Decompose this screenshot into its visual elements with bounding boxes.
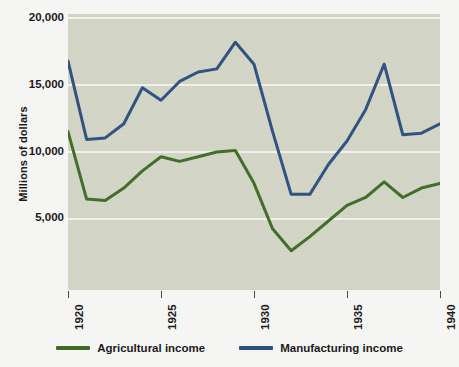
- plot-area: [68, 14, 440, 290]
- x-axis-tick-label: 1930: [259, 304, 271, 330]
- x-axis-tick-mark: [161, 291, 162, 298]
- legend-item-manufacturing: Manufacturing income: [239, 342, 403, 354]
- legend-label: Agricultural income: [97, 342, 205, 354]
- y-axis-tick-label: 10,000: [6, 145, 64, 157]
- x-axis-tick-label: 1940: [445, 304, 457, 330]
- x-axis-tick-mark: [68, 291, 69, 298]
- x-axis-tick-mark: [440, 291, 441, 298]
- series-line: [68, 132, 440, 251]
- y-axis-tick-label: 20,000: [6, 11, 64, 23]
- chart-figure: Millions of dollars 20,000 15,000 10,000…: [0, 0, 459, 367]
- x-axis-tick-mark: [347, 291, 348, 298]
- x-axis-tick-label: 1925: [166, 304, 178, 330]
- legend-swatch-icon: [56, 346, 90, 350]
- x-axis-tick-label: 1920: [73, 304, 85, 330]
- x-axis-tick-mark: [254, 291, 255, 298]
- y-axis: Millions of dollars 20,000 15,000 10,000…: [0, 0, 64, 367]
- series-line: [68, 42, 440, 194]
- legend-swatch-icon: [239, 346, 273, 350]
- x-axis-tick-label: 1935: [352, 304, 364, 330]
- chart-legend: Agricultural income Manufacturing income: [0, 336, 459, 360]
- y-axis-tick-label: 15,000: [6, 78, 64, 90]
- y-axis-tick-label: 5,000: [6, 211, 64, 223]
- legend-label: Manufacturing income: [280, 342, 403, 354]
- legend-item-agricultural: Agricultural income: [56, 342, 205, 354]
- series-lines: [68, 14, 440, 290]
